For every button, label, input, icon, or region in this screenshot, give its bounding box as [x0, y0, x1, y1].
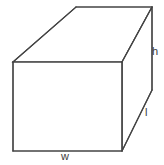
width-label: w	[61, 151, 69, 162]
length-label: l	[145, 107, 147, 118]
height-label: h	[152, 46, 158, 57]
prism-front-face	[13, 62, 122, 151]
rectangular-prism-drawing	[0, 0, 164, 165]
prism-figure-container: h l w	[0, 0, 164, 165]
